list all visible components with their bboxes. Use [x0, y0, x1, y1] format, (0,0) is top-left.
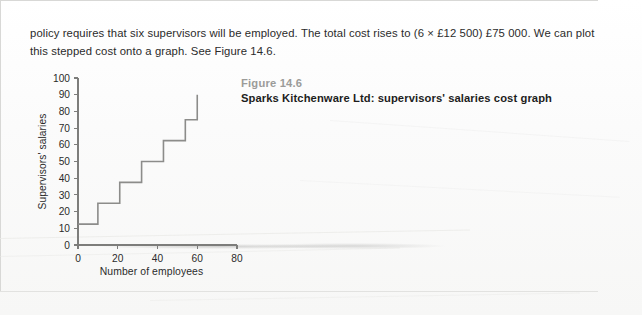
step-cost-line: [78, 95, 197, 224]
y-axis-tick-label: 10: [59, 223, 71, 234]
cost-step-chart: Supervisors' salaries Number of employee…: [20, 70, 270, 285]
page-border-top: [0, 0, 598, 1]
body-paragraph-text: policy requires that six supervisors wil…: [30, 24, 595, 60]
y-axis-tick-label: 70: [59, 123, 71, 134]
scanned-page: policy requires that six supervisors wil…: [0, 0, 642, 315]
scan-smudge: [255, 243, 445, 249]
x-axis-ticks: 020406080: [75, 245, 243, 264]
figure-caption: Figure 14.6 Sparks Kitchenware Ltd: supe…: [241, 76, 581, 106]
y-axis-tick-label: 100: [53, 73, 70, 84]
y-axis-tick-label: 0: [64, 240, 70, 251]
y-axis-tick-label: 90: [59, 89, 71, 100]
x-axis-tick-label: 80: [231, 253, 243, 264]
y-axis-tick-label: 30: [59, 190, 71, 201]
figure-title: Sparks Kitchenware Ltd: supervisors' sal…: [241, 91, 581, 106]
x-axis-tick-label: 20: [112, 253, 124, 264]
figure-number: Figure 14.6: [241, 76, 581, 90]
body-paragraph: policy requires that six supervisors wil…: [30, 24, 595, 60]
y-axis-tick-label: 50: [59, 156, 71, 167]
page-border-left: [0, 0, 1, 292]
y-axis-tick-label: 20: [59, 206, 71, 217]
page-border-bottom: [0, 291, 598, 292]
y-axis-tick-label: 80: [59, 106, 71, 117]
x-axis-tick-label: 60: [192, 253, 204, 264]
x-axis-tick-label: 0: [75, 253, 81, 264]
y-axis-tick-label: 60: [59, 139, 71, 150]
x-axis-tick-label: 40: [152, 253, 164, 264]
chart-plot-area: 0102030405060708090100 020406080: [20, 70, 270, 270]
y-axis-tick-label: 40: [59, 173, 71, 184]
y-axis-ticks: 0102030405060708090100: [53, 73, 78, 251]
